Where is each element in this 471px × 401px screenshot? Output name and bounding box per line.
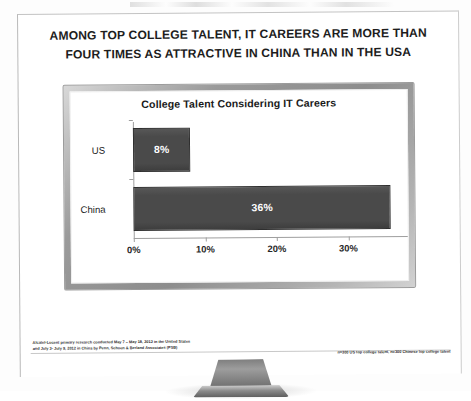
slide-headline: AMONG TOP COLLEGE TALENT, IT CAREERS ARE…: [30, 24, 446, 65]
category-axis-tick: [129, 179, 133, 180]
monitor-screen: College Talent Considering IT Careers 0%…: [70, 89, 409, 284]
chart-plot-area: 0%10%20%30%40% USChina 8%36%: [71, 118, 402, 279]
bar-us: 8%: [133, 127, 191, 171]
monitor-base: [193, 385, 289, 398]
category-axis-tick: [129, 120, 133, 121]
headline-line-2: FOUR TIMES AS ATTRACTIVE IN CHINA THAN I…: [30, 43, 446, 65]
monitor-neck: [210, 359, 272, 387]
slide-content: AMONG TOP COLLEGE TALENT, IT CAREERS ARE…: [18, 12, 461, 377]
bar-value-label: 36%: [251, 202, 272, 213]
presentation-slide: AMONG TOP COLLEGE TALENT, IT CAREERS ARE…: [17, 11, 462, 377]
axis-tick-label: 0%: [127, 244, 141, 255]
category-label-us: US: [92, 144, 105, 155]
axis-tick-label: 10%: [196, 243, 215, 254]
axis-tick: [277, 237, 278, 241]
bar-china: 36%: [133, 185, 391, 231]
axis-tick-label: 30%: [339, 242, 358, 253]
axis-tick: [348, 236, 349, 240]
axis-tick-label: 20%: [267, 243, 286, 254]
axis-tick: [134, 238, 135, 242]
footnote-source: Alcatel-Lucent primary research conducte…: [33, 338, 269, 352]
axis-ticks: [71, 118, 401, 121]
monitor-graphic: College Talent Considering IT Careers 0%…: [63, 82, 417, 291]
category-labels: USChina: [71, 118, 401, 121]
footnote-sample-size: n=300 US top college talent, n=300 Chine…: [337, 349, 450, 355]
category-label-china: China: [80, 203, 105, 214]
bar-value-label: 8%: [154, 144, 170, 155]
value-axis-line: [134, 236, 409, 239]
axis-tick-labels: 0%10%20%30%40%: [71, 118, 401, 121]
scan-artifact: [130, 2, 430, 7]
axis-tick: [205, 238, 206, 242]
chart-title: College Talent Considering IT Careers: [71, 96, 407, 111]
bar-series: 8%36%: [71, 118, 401, 121]
